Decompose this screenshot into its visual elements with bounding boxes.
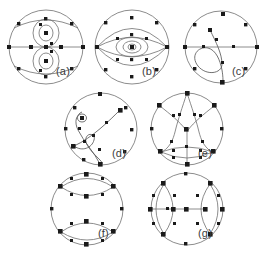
panel-label-c: (c) <box>232 66 245 77</box>
panel-b-drawing <box>92 8 172 86</box>
panel-c-drawing <box>182 8 260 86</box>
panel-g-drawing <box>148 170 226 248</box>
panel-a-drawing <box>6 8 86 86</box>
panel-label-d: (d) <box>112 148 126 159</box>
panel-b <box>92 8 172 86</box>
panel-f <box>48 170 126 248</box>
panel-label-b: (b) <box>142 66 156 77</box>
panel-label-g: (g) <box>198 228 212 239</box>
panel-a <box>6 8 86 86</box>
panel-f-drawing <box>48 170 126 248</box>
panel-label-a: (a) <box>56 66 70 77</box>
panel-c <box>182 8 260 86</box>
figure-canvas: (a) (b) <box>0 0 278 254</box>
panel-e-drawing <box>148 90 226 168</box>
panel-d <box>62 90 140 168</box>
panel-d-drawing <box>62 90 140 168</box>
panel-e <box>148 90 226 168</box>
panel-g <box>148 170 226 248</box>
panel-label-f: (f) <box>98 228 109 239</box>
panel-label-e: (e) <box>198 148 212 159</box>
